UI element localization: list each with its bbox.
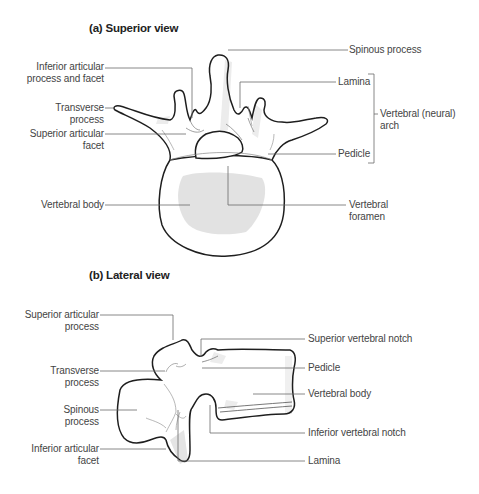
- label-lamina: Lamina: [338, 76, 370, 88]
- label-superior-articular-process: Superior articular process: [25, 309, 99, 333]
- label-lateral-pedicle: Pedicle: [308, 362, 340, 374]
- vertebral-foramen-outline: [195, 131, 242, 158]
- label-vertebral-body: Vertebral body: [41, 199, 104, 211]
- label-vertebral-arch: Vertebral (neural) arch: [380, 108, 455, 132]
- label-inferior-articular-process: Inferior articular process and facet: [27, 61, 104, 85]
- label-lateral-lamina: Lamina: [308, 455, 340, 467]
- label-inferior-vertebral-notch: Inferior vertebral notch: [308, 427, 406, 439]
- lateral-view-drawing: [117, 340, 295, 464]
- label-spinous-process-lateral: Spinous process: [64, 404, 99, 428]
- label-pedicle: Pedicle: [338, 148, 370, 160]
- label-vertebral-foramen: Vertebral foramen: [349, 199, 388, 223]
- label-spinous-process: Spinous process: [349, 44, 421, 56]
- lateral-leader-lines: [100, 315, 305, 461]
- superior-view-title: (a) Superior view: [89, 22, 178, 34]
- label-inferior-articular-facet: Inferior articular facet: [31, 443, 99, 467]
- label-lateral-transverse-process: Transverse process: [50, 365, 99, 389]
- label-superior-vertebral-notch: Superior vertebral notch: [308, 333, 412, 345]
- superior-view-drawing: [114, 55, 328, 256]
- lateral-view-title: (b) Lateral view: [89, 269, 170, 281]
- lateral-outline: [117, 340, 295, 462]
- label-superior-articular-facet: Superior articular facet: [30, 128, 104, 152]
- label-lateral-vertebral-body: Vertebral body: [308, 388, 371, 400]
- label-transverse-process: Transverse process: [55, 102, 104, 126]
